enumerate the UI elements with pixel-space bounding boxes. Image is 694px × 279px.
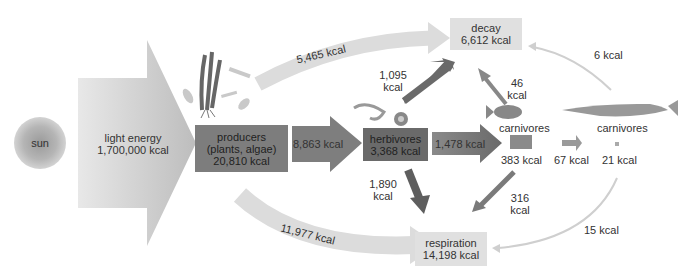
top-carnivores-energy-box [615,142,619,146]
algae-icon [229,67,251,78]
carnivores-label: carnivores [499,122,550,135]
flow-herbivores-respiration: 1,890 kcal [365,178,401,202]
carnivores-energy-box [510,135,532,149]
herbivores-box: herbivores 3,368 kcal [363,128,428,161]
flow-carnivores-decay: 46 kcal [504,77,530,101]
herbivores-to-respiration-arrow [408,170,420,200]
flow-top-carnivores-respiration: 15 kcal [584,224,619,237]
producers-box: producers (plants, algae) 20,810 kcal [195,125,288,172]
fish-icon [494,105,522,119]
flow-carnivores-carnivores: 67 kcal [554,154,589,167]
light-energy-label: light energy 1,700,000 kcal [78,132,188,156]
carnivores-to-carnivores-arrow [562,135,582,151]
seaweed-icon [201,52,220,118]
respiration-box: respiration 14,198 kcal [415,232,487,266]
algae-icon [181,87,196,105]
decay-box: decay 6,612 kcal [450,18,522,50]
flow-carnivores-respiration: 316 kcal [506,192,534,216]
flow-herbivores-decay: 1,095 kcal [375,69,411,93]
carnivores-value: 383 kcal [501,154,542,167]
top-carnivores-value: 21 kcal [602,154,637,167]
flow-top-carnivores-decay: 6 kcal [594,49,623,62]
flow-producers-herbivores: 8,863 kcal [293,138,343,151]
top-carnivores-label: carnivores [597,122,648,135]
carnivores-to-decay-arrow [485,78,506,104]
shrimp-icon [354,105,384,119]
gar-fish-icon [562,100,678,116]
sun: sun [14,117,66,169]
algae-icon [221,91,237,98]
flow-herbivores-carnivores: 1,478 kcal [435,138,485,151]
algae-icon [236,96,252,112]
